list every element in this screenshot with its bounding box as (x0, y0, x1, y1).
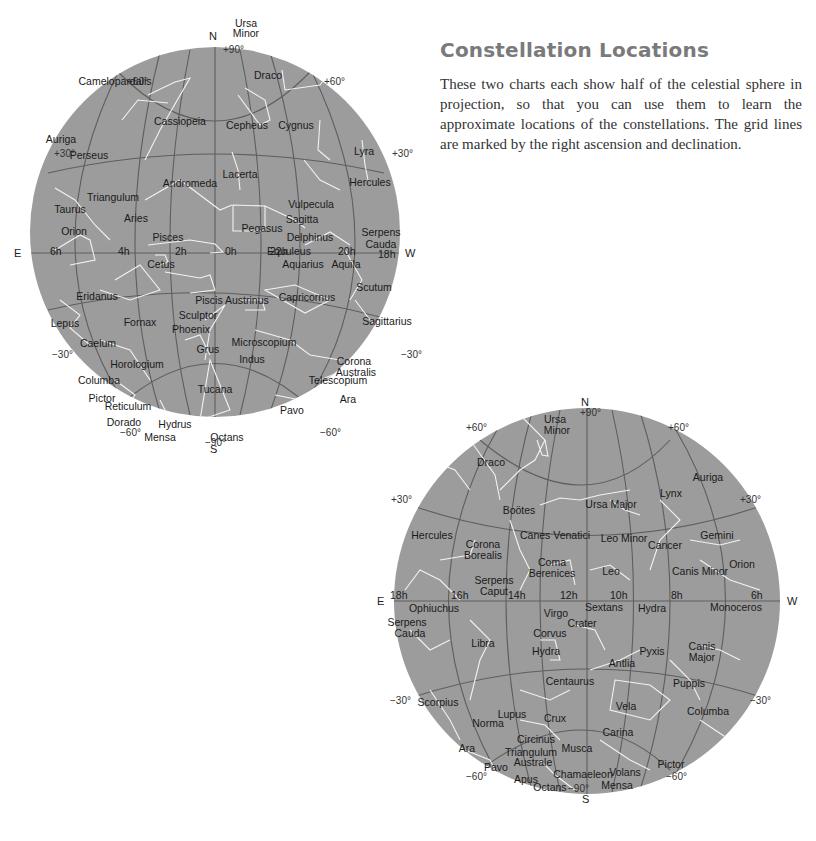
constellation-label: Carina (603, 726, 634, 738)
constellation-label: Virgo (544, 607, 568, 619)
ra-label: 8h (671, 589, 683, 601)
dec-label-p60-right: +60° (668, 422, 689, 433)
constellation-label: Columba (687, 705, 729, 717)
constellation-label: Mensa (601, 779, 633, 791)
dec-label-pole-s: −90° (568, 783, 589, 794)
constellation-label: Berenices (529, 567, 576, 579)
constellation-label: Vela (616, 700, 637, 712)
constellation-label: Borealis (464, 549, 502, 561)
constellation-label: Monoceros (710, 601, 762, 613)
constellation-label: Ursa Major (585, 498, 637, 510)
dec-label-m60-right: −60° (666, 771, 687, 782)
dec-label-p30-left: +30° (391, 494, 412, 505)
constellation-label: Canes Venatici (520, 529, 590, 541)
constellation-label: Volans (609, 766, 641, 778)
constellation-label: Libra (471, 637, 495, 649)
constellation-label: Cauda (395, 627, 426, 639)
east-label: E (377, 595, 384, 607)
constellation-label: Lynx (660, 487, 683, 499)
star-chart-2: N S E W +90° −90° +60° +60° +30° +30° −3… (0, 0, 816, 841)
ra-label: 16h (451, 589, 469, 601)
ra-label: 10h (610, 589, 628, 601)
constellation-label: Pavo (484, 761, 508, 773)
south-label: S (582, 793, 589, 805)
constellation-label: Hydra (532, 645, 560, 657)
constellation-label: Hydra (638, 602, 666, 614)
constellation-label: Norma (472, 717, 504, 729)
constellation-label: Musca (562, 742, 593, 754)
constellation-label: Crux (544, 712, 567, 724)
ra-label: 18h (390, 589, 408, 601)
constellation-label: Caput (480, 585, 508, 597)
constellation-label: Puppis (673, 677, 705, 689)
ra-label: 6h (751, 589, 763, 601)
ra-label: 14h (508, 589, 526, 601)
constellation-label: Pictor (658, 758, 685, 770)
constellation-label: Octans (533, 781, 566, 793)
dec-label-p60-left: +60° (466, 422, 487, 433)
constellation-label: Auriga (693, 471, 724, 483)
dec-label-m30-right: −30° (750, 695, 771, 706)
constellation-label: Hercules (411, 529, 452, 541)
ra-label: 12h (560, 589, 578, 601)
constellation-label: Pyxis (639, 645, 664, 657)
constellation-label: Crater (567, 617, 597, 629)
constellation-label: Leo Minor (601, 532, 648, 544)
constellation-label: Scorpius (418, 696, 459, 708)
dec-label-p30-right: +30° (740, 494, 761, 505)
dec-label-m30-left: −30° (390, 695, 411, 706)
constellation-label: Draco (477, 456, 505, 468)
constellation-label: Major (689, 651, 716, 663)
constellation-label: Australe (514, 756, 553, 768)
west-label: W (787, 595, 798, 607)
constellation-label: Cancer (648, 539, 682, 551)
constellation-label: Leo (602, 565, 620, 577)
constellation-label: Ophiuchus (409, 602, 459, 614)
constellation-label: Orion (729, 558, 755, 570)
constellation-label: Centaurus (546, 675, 594, 687)
dec-label-pole-n: +90° (580, 407, 601, 418)
constellation-label: Circinus (517, 733, 555, 745)
constellation-label: Sextans (585, 601, 623, 613)
constellation-label: Antlia (609, 657, 635, 669)
constellation-label: Canis Minor (672, 565, 729, 577)
constellation-label: Gemini (700, 529, 733, 541)
constellation-label: Boötes (503, 504, 536, 516)
constellation-label: Corvus (533, 627, 566, 639)
constellation-label: Minor (544, 424, 571, 436)
constellation-label: Ara (459, 742, 476, 754)
